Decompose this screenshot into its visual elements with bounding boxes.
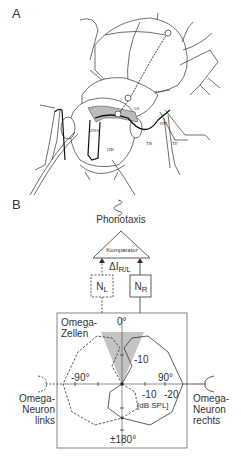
unit-label: [dB SPL] (137, 401, 169, 410)
angle-180: ±180° (110, 434, 136, 445)
neuron-right-box: NR (131, 281, 151, 295)
ring-label-20: -20 (164, 389, 178, 400)
nl-sub: L (103, 285, 107, 294)
ring-label-up: -10 (134, 354, 148, 365)
omega-neuron-left-label: Omega- Neuron links (8, 393, 55, 426)
angle-90: 90° (158, 372, 173, 383)
neuron-left-box: NL (92, 281, 112, 295)
omega-neuron-right-label: Omega- Neuron rechts (193, 393, 240, 426)
box-title-line2: Zellen (61, 328, 97, 339)
nr-main: N (134, 281, 141, 292)
phonotaxis-label: Phonotaxis (80, 214, 162, 225)
right-neuron-line1: Omega- (193, 393, 240, 404)
right-neuron-line2: Neuron (193, 404, 240, 415)
left-neuron-line1: Omega- (8, 393, 55, 404)
box-title-line1: Omega- (61, 317, 97, 328)
left-neuron-line2: Neuron (8, 404, 55, 415)
polar-diagram (0, 0, 241, 458)
angle-minus90: -90° (71, 372, 89, 383)
delta-sub: R/L (118, 265, 130, 274)
angle-0: 0° (117, 316, 127, 327)
delta-intensity-label: ΔIR/L (109, 261, 131, 275)
box-title: Omega- Zellen (61, 317, 97, 339)
nr-sub: R (142, 285, 148, 294)
right-neuron-line3: rechts (193, 415, 240, 426)
left-neuron-line3: links (8, 415, 55, 426)
comparator-label: Komparator (95, 247, 149, 253)
ring-label-10: -10 (142, 389, 156, 400)
